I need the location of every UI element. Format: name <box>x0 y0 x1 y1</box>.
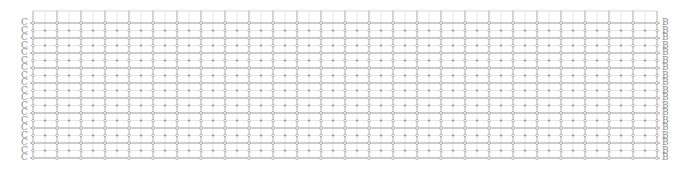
row-label-left: C <box>21 153 28 162</box>
row-label-right: B <box>662 153 669 162</box>
lattice-diagram <box>0 0 686 174</box>
